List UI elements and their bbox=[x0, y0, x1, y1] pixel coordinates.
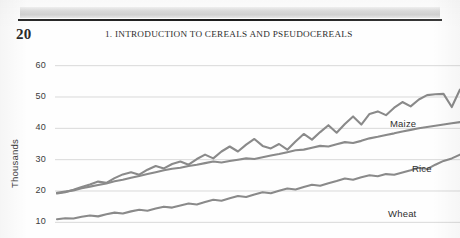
y-axis-tick-label: 10 bbox=[22, 216, 46, 226]
series-line-maize bbox=[57, 89, 460, 193]
line-chart: Thousands 605040302010 Maize Rice Wheat bbox=[0, 50, 460, 238]
series-label-rice: Rice bbox=[412, 163, 432, 174]
y-axis-tick-label: 50 bbox=[22, 91, 46, 101]
series-line-rice bbox=[57, 122, 460, 193]
y-axis-title: Thousands bbox=[9, 124, 20, 204]
scan-artifact-band bbox=[20, 7, 440, 18]
header-rule bbox=[18, 19, 442, 21]
y-axis-tick-label: 30 bbox=[22, 154, 46, 164]
y-axis-tick-label: 60 bbox=[22, 60, 46, 70]
y-axis-tick-label: 20 bbox=[22, 185, 46, 195]
y-axis-tick-label: 40 bbox=[22, 122, 46, 132]
series-label-wheat: Wheat bbox=[388, 208, 416, 219]
running-head: 1. INTRODUCTION TO CEREALS AND PSEUDOCER… bbox=[105, 29, 353, 39]
series-label-maize: Maize bbox=[390, 118, 416, 129]
scanned-book-page: 20 1. INTRODUCTION TO CEREALS AND PSEUDO… bbox=[0, 0, 460, 238]
page-number: 20 bbox=[16, 26, 31, 43]
